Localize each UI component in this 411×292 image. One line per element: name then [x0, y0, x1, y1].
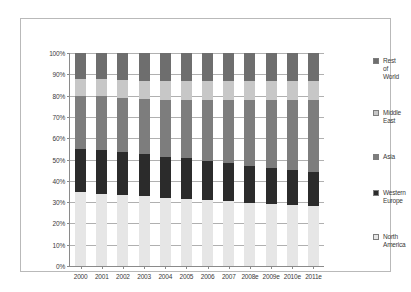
x-tick-mark [186, 266, 187, 269]
y-axis-tick-label: 40% [53, 177, 65, 184]
bar-segment [139, 196, 150, 266]
bar-segment [266, 100, 277, 168]
bar-segment [223, 53, 234, 81]
bar-segment [75, 149, 86, 193]
bar-segment [181, 81, 192, 100]
bar-column: 2006 [197, 53, 218, 266]
x-tick-mark [165, 266, 166, 269]
x-axis-tick-label: 2011e [305, 273, 322, 280]
bar-column: 2009e [261, 53, 282, 266]
bar-segment [117, 152, 128, 195]
bar-segment [308, 81, 319, 100]
stacked-bar [75, 53, 86, 266]
bar-segment [223, 201, 234, 266]
y-axis-tick-label: 30% [53, 199, 65, 206]
bar-segment [244, 166, 255, 203]
x-axis-tick-label: 2010e [284, 273, 301, 280]
bar-segment [223, 100, 234, 163]
legend-item[interactable]: MiddleEast [373, 109, 411, 125]
bar-segment [223, 81, 234, 100]
bar-segment [308, 100, 319, 172]
bar-segment [202, 200, 213, 266]
stacked-bar [160, 53, 171, 266]
stacked-bar [244, 53, 255, 266]
bar-segment [96, 96, 107, 150]
stacked-bar [139, 53, 150, 266]
stacked-bar [202, 53, 213, 266]
bar-segment [160, 100, 171, 158]
x-tick-mark [81, 266, 82, 269]
stacked-bar [308, 53, 319, 266]
bar-segment [202, 81, 213, 100]
chart-legend: RestofWorldMiddleEastAsiaWesternEuropeNo… [373, 57, 411, 277]
bar-segment [96, 79, 107, 96]
bar-segment [287, 170, 298, 205]
bar-segment [266, 81, 277, 100]
bar-segment [244, 203, 255, 266]
bar-segment [244, 81, 255, 100]
y-axis-tick-label: 90% [53, 71, 65, 78]
bar-segment [287, 100, 298, 170]
bar-segment [287, 53, 298, 81]
bar-segment [160, 157, 171, 197]
y-axis-tick-label: 50% [53, 156, 65, 163]
y-axis-tick-label: 10% [53, 241, 65, 248]
bar-segment [117, 195, 128, 266]
x-tick-mark [250, 266, 251, 269]
bar-segment [139, 81, 150, 99]
x-tick-mark [271, 266, 272, 269]
legend-item[interactable]: NorthAmerica [373, 233, 411, 249]
x-axis-tick-label: 2001 [95, 273, 109, 280]
bar-segment [308, 53, 319, 81]
bar-segment [75, 79, 86, 96]
legend-swatch-icon [373, 154, 379, 160]
x-tick-mark [208, 266, 209, 269]
bar-segment [287, 205, 298, 266]
stacked-bar [181, 53, 192, 266]
bar-segment [244, 100, 255, 166]
bar-segment [244, 53, 255, 81]
legend-swatch-icon [373, 234, 379, 240]
bar-segment [160, 198, 171, 266]
x-axis-tick-label: 2009e [263, 273, 280, 280]
bar-segment [181, 199, 192, 266]
bar-segment [202, 100, 213, 161]
x-tick-mark [292, 266, 293, 269]
stacked-bar [96, 53, 107, 266]
bar-segment [117, 80, 128, 98]
legend-label: MiddleEast [383, 109, 401, 125]
bar-segment [96, 150, 107, 194]
bar-column: 2004 [155, 53, 176, 266]
bar-segment [266, 53, 277, 81]
x-axis-tick-label: 2000 [74, 273, 88, 280]
bar-column: 2003 [134, 53, 155, 266]
bar-segment [139, 99, 150, 154]
x-axis-tick-label: 2002 [116, 273, 130, 280]
y-axis-tick-label: 80% [53, 92, 65, 99]
y-axis-tick-label: 0% [56, 263, 65, 270]
x-axis-tick-label: 2008e [241, 273, 258, 280]
bar-segment [181, 158, 192, 198]
x-tick-mark [229, 266, 230, 269]
y-tick-mark [67, 266, 70, 267]
legend-item[interactable]: Asia [373, 153, 411, 161]
legend-item[interactable]: WesternEurope [373, 189, 411, 205]
stacked-bar [223, 53, 234, 266]
bar-column: 2007 [218, 53, 239, 266]
bar-segment [139, 154, 150, 196]
plot-area: 100%90%80%70%60%50%40%30%20%10%0% 200020… [69, 53, 324, 267]
bar-segment [75, 96, 86, 149]
bar-column: 2001 [91, 53, 112, 266]
bar-segment [96, 53, 107, 79]
figure-container: 100%90%80%70%60%50%40%30%20%10%0% 200020… [0, 0, 411, 292]
x-axis-tick-label: 2007 [222, 273, 236, 280]
bar-segment [266, 204, 277, 266]
bar-segment [223, 163, 234, 201]
bar-segment [202, 53, 213, 81]
bar-segment [202, 161, 213, 200]
bar-segment [160, 53, 171, 81]
x-axis-tick-label: 2004 [158, 273, 172, 280]
legend-item[interactable]: RestofWorld [373, 57, 411, 81]
bar-column: 2000 [70, 53, 91, 266]
legend-label: Asia [383, 153, 395, 161]
